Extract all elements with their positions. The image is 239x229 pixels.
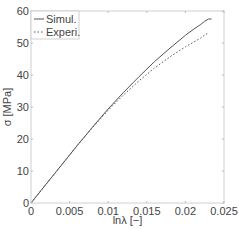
x-axis-label: lnλ [−] (113, 214, 143, 226)
y-tick-label: 20 (17, 133, 29, 145)
series-experi (31, 33, 209, 203)
x-tick-label: 0.02 (175, 205, 196, 217)
y-tick-label: 0 (23, 197, 29, 209)
axes-box (31, 11, 224, 203)
y-tick-label: 30 (17, 101, 29, 113)
series-simul (31, 19, 212, 203)
stress-strain-chart: 00.0050.010.0150.020.0250102030405060lnλ… (0, 0, 239, 229)
plot-area (31, 19, 212, 203)
legend-label: Simul. (46, 13, 77, 25)
legend: Simul.Experi. (31, 11, 80, 39)
legend-label: Experi. (46, 26, 80, 38)
x-tick-label: 0.005 (56, 205, 84, 217)
y-tick-label: 60 (17, 5, 29, 17)
y-tick-label: 50 (17, 37, 29, 49)
y-axis-label: σ [MPa] (1, 88, 13, 127)
x-tick-label: 0.025 (210, 205, 238, 217)
y-tick-label: 40 (17, 69, 29, 81)
y-tick-label: 10 (17, 165, 29, 177)
